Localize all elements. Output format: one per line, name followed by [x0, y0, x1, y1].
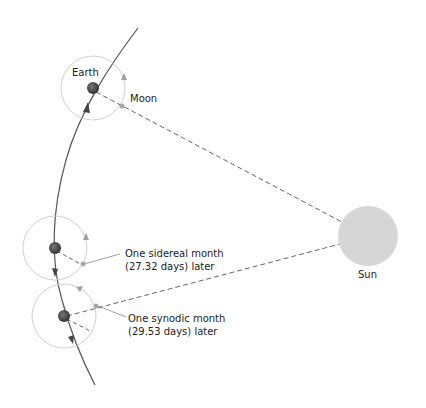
earth-sidereal	[49, 242, 61, 254]
earth-moon-line-sidereal	[57, 251, 82, 265]
sidereal-label-line1: One sidereal month	[125, 248, 224, 260]
sidereal-label-line2: (27.32 days) later	[125, 261, 214, 273]
moon-label: Moon	[130, 93, 157, 105]
moon-start	[120, 104, 125, 109]
earth-sun-line-start	[96, 92, 342, 222]
earth-synodic	[58, 310, 70, 322]
moon-sidereal	[81, 262, 86, 267]
earth-label: Earth	[72, 67, 99, 79]
earth-orbit-path	[54, 28, 138, 385]
sidereal-leader-line	[84, 254, 120, 264]
diagram-canvas	[0, 0, 426, 408]
synodic-label-line1: One synodic month	[128, 313, 225, 325]
earth-start	[87, 82, 99, 94]
synodic-label-line2: (29.53 days) later	[128, 326, 217, 338]
moon-synodic	[94, 304, 99, 309]
sun-label: Sun	[358, 269, 377, 281]
synodic-leader-line	[98, 306, 126, 317]
orbit-arrow-icon	[68, 335, 74, 344]
sun	[338, 206, 398, 266]
